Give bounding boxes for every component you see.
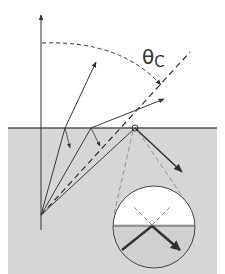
refracted-ray-1 — [65, 62, 96, 128]
total-internal-reflection-diagram: θC — [0, 0, 225, 274]
refracted-ray-2 — [91, 99, 164, 128]
critical-angle-label: θC — [142, 45, 165, 71]
